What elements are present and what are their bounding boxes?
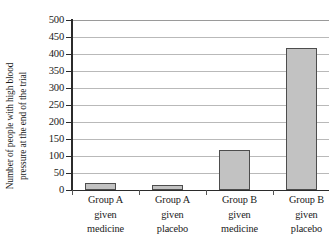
x-label-line: given: [134, 208, 211, 223]
bar-group-b-given-medicine: [219, 150, 250, 190]
y-tick-label-250: 250: [34, 100, 64, 111]
y-tick-label-500: 500: [34, 15, 64, 26]
y-tick-label-450: 450: [34, 32, 64, 43]
bar-chart: Number of people with high blood pressur…: [0, 0, 329, 252]
x-label-line: placebo: [134, 222, 211, 237]
y-tick-label-400: 400: [34, 49, 64, 60]
x-label-line: Group B: [268, 193, 329, 208]
y-tick-label-50: 50: [34, 168, 64, 179]
x-label-line: given: [67, 208, 144, 223]
bar-group-b-given-placebo: [286, 48, 317, 190]
x-label-group-a-given-placebo: Group A given placebo: [134, 193, 211, 237]
x-label-line: given: [201, 208, 278, 223]
x-label-line: medicine: [67, 222, 144, 237]
x-label-group-b-given-placebo: Group B given placebo: [268, 193, 329, 237]
x-label-group-b-given-medicine: Group B given medicine: [201, 193, 278, 237]
x-label-line: placebo: [268, 222, 329, 237]
y-axis-title: Number of people with high blood pressur…: [0, 0, 34, 252]
x-label-line: medicine: [201, 222, 278, 237]
y-axis-tick-labels: 500 450 400 350 300 250 200 150 100 50 0: [30, 0, 64, 252]
y-axis-title-line-1: Number of people with high blood: [4, 63, 17, 190]
x-label-line: Group B: [201, 193, 278, 208]
bars-layer: [72, 20, 329, 190]
x-label-group-a-given-medicine: Group A given medicine: [67, 193, 144, 237]
y-tick-label-200: 200: [34, 117, 64, 128]
y-tick-label-150: 150: [34, 134, 64, 145]
y-axis-title-line-2: pressure at the end of the trial: [17, 63, 30, 190]
x-label-line: Group A: [134, 193, 211, 208]
x-axis-category-labels: Group A given medicine Group A given pla…: [72, 193, 329, 251]
x-axis-line: [71, 190, 329, 192]
y-tick-label-300: 300: [34, 83, 64, 94]
y-tick-label-0: 0: [34, 185, 64, 196]
x-label-line: given: [268, 208, 329, 223]
y-axis-line: [71, 19, 73, 191]
y-tick-label-350: 350: [34, 66, 64, 77]
x-label-line: Group A: [67, 193, 144, 208]
y-tick-label-100: 100: [34, 151, 64, 162]
